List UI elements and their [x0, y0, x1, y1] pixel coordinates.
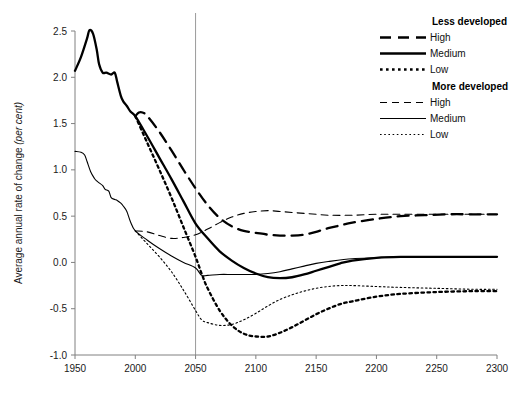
y-tick-label: 0.5 — [53, 211, 67, 222]
chart-container: -1.0-0.50.00.51.01.52.02.519502000205021… — [0, 0, 530, 403]
y-tick-label: 1.5 — [53, 118, 67, 129]
series-layer — [75, 30, 497, 337]
x-tick-label: 1950 — [64, 363, 87, 374]
y-tick-label: 1.0 — [53, 164, 67, 175]
x-tick-label: 2100 — [245, 363, 268, 374]
x-tick-label: 2300 — [486, 363, 509, 374]
tick-label-layer: -1.0-0.50.00.51.01.52.02.519502000205021… — [50, 26, 509, 375]
legend-label-1-2: Low — [430, 129, 449, 140]
y-tick-label: -1.0 — [50, 350, 68, 361]
x-tick-label: 2150 — [305, 363, 328, 374]
series-line-2 — [135, 116, 497, 337]
legend-label-1-0: High — [430, 97, 451, 108]
y-tick-label: -0.5 — [50, 303, 68, 314]
x-tick-label: 2000 — [124, 363, 147, 374]
legend-label-0-1: Medium — [430, 48, 466, 59]
y-axis-title: Average annual rate of change (per cent) — [13, 102, 24, 284]
y-tick-label: 2.5 — [53, 26, 67, 37]
population-growth-line-chart: -1.0-0.50.00.51.01.52.02.519502000205021… — [0, 0, 530, 403]
legend-label-0-0: High — [430, 32, 451, 43]
series-line-3 — [75, 151, 497, 276]
legend-group-heading-1: More developed — [432, 81, 508, 92]
chart-legend: Less developedHighMediumLowMore develope… — [380, 16, 508, 140]
x-tick-label: 2050 — [184, 363, 207, 374]
y-axis-title-text: Average annual rate of change (per cent) — [13, 102, 24, 284]
legend-label-1-1: Medium — [430, 113, 466, 124]
y-tick-label: 2.0 — [53, 72, 67, 83]
x-tick-label: 2250 — [426, 363, 449, 374]
series-line-5 — [135, 231, 497, 326]
legend-group-heading-0: Less developed — [432, 16, 507, 27]
y-axis-title-units: (per cent) — [13, 102, 24, 145]
legend-label-0-2: Low — [430, 64, 449, 75]
x-tick-label: 2200 — [365, 363, 388, 374]
y-tick-label: 0.0 — [53, 257, 67, 268]
